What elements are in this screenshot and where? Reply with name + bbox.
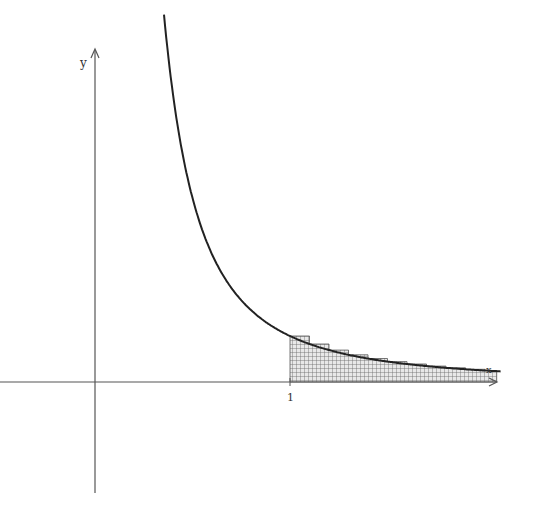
x-axis-label: x	[486, 364, 492, 375]
y-axis-label: y	[79, 56, 87, 70]
tick-label-1: 1	[287, 391, 294, 404]
function-graph: y x 1	[0, 0, 542, 526]
y-axis	[91, 49, 99, 493]
curve	[164, 15, 501, 372]
shaded-area	[290, 336, 497, 382]
